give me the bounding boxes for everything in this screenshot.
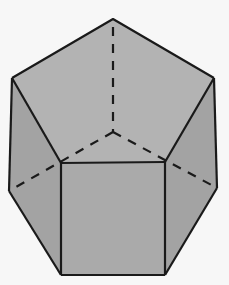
prism-svg xyxy=(0,0,229,285)
pentagonal-prism-diagram xyxy=(0,0,229,285)
front-top-edge xyxy=(61,162,165,163)
front-square-face xyxy=(61,162,165,275)
